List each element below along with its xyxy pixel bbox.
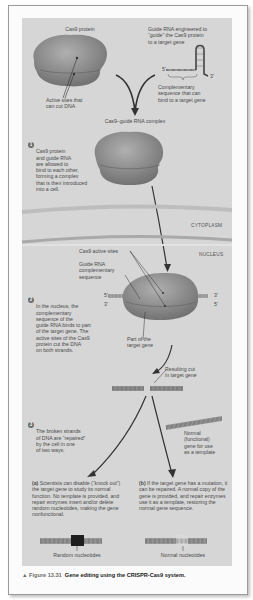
- nucleus-label: NUCLEUS: [199, 252, 223, 257]
- outcome-a-text: (a) Scientists can disable (“knock out”)…: [32, 480, 128, 518]
- three-prime-label: 3': [210, 73, 214, 79]
- step-2-badge: 2: [28, 297, 34, 303]
- dna-5prime-right: 5': [214, 301, 218, 307]
- cytoplasm-label: CYTOPLASM: [191, 223, 222, 228]
- cut-dna-icon: [112, 386, 183, 391]
- complementary-sequence-label: Complementary sequence that can bind to …: [158, 84, 238, 103]
- complex-label: Cas9–guide RNA complex: [90, 118, 180, 124]
- merge-arrow-icon: [116, 75, 155, 116]
- outcome-b-text: (b) If the target gene has a mutation, i…: [139, 480, 231, 511]
- step-1-badge: 1: [28, 142, 34, 148]
- figure-number: ▲ Figure 13.31: [22, 572, 62, 578]
- guide-rna-icon: [166, 46, 208, 81]
- cas9-protein-icon: [33, 35, 107, 98]
- step-1-text: 1Cas9 protein and guide RNA are allowed …: [28, 142, 116, 192]
- guide-rna-complementary-label: Guide RNA complementary sequence: [79, 261, 129, 280]
- active-sites-label: Active sites that can cut DNA: [46, 97, 106, 110]
- template-gene-icon: [166, 416, 222, 430]
- step-3-text: 3The broken strands of DNA are “repaired…: [28, 422, 116, 453]
- normal-nucleotides-dna-icon: [145, 535, 207, 551]
- normal-gene-label: Normal (functional) gene for use as a te…: [184, 430, 234, 455]
- figure-title: Gene editing using the CRISPR-Cas9 syste…: [65, 572, 186, 578]
- target-gene-part-label: Part of the target gene: [127, 336, 167, 349]
- resulting-cut-label: Resulting cut in target gene: [165, 366, 225, 379]
- normal-nucleotides-label: Normal nucleotides: [145, 552, 221, 558]
- guide-rna-label: Guide RNA engineered to “guide” the Cas9…: [148, 26, 238, 45]
- cas9-protein-label: Cas9 protein: [50, 26, 110, 32]
- random-nucleotides-dna-icon: [40, 535, 102, 551]
- step-2-text: 2In the nucleus, the complementary seque…: [28, 297, 122, 354]
- five-prime-label: 5': [162, 66, 166, 72]
- figure-caption: ▲ Figure 13.31 Gene editing using the CR…: [22, 572, 237, 578]
- step-3-badge: 3: [28, 422, 34, 428]
- cas9-active-sites-label: Cas9 active sites: [79, 248, 118, 254]
- dna-3prime-right: 3': [214, 292, 218, 298]
- random-nucleotides-label: Random nucleotides: [40, 552, 114, 558]
